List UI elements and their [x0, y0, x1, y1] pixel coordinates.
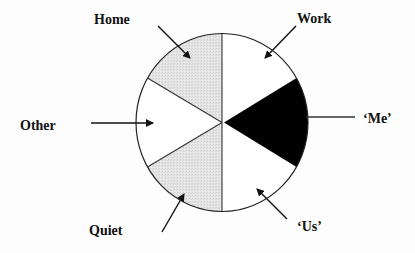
label-work: Work: [297, 12, 331, 26]
label-home: Home: [94, 13, 130, 27]
label-quiet: Quiet: [89, 224, 122, 238]
label-us: ‘Us’: [297, 220, 322, 234]
label-me: ‘Me’: [363, 112, 392, 126]
segmented-circle-diagram: [0, 0, 415, 253]
arrow-quiet: [162, 194, 184, 232]
arrow-work: [265, 26, 296, 58]
label-other: Other: [20, 119, 56, 133]
diagram-canvas: Home Work Other ‘Me’ Quiet ‘Us’: [0, 0, 415, 253]
